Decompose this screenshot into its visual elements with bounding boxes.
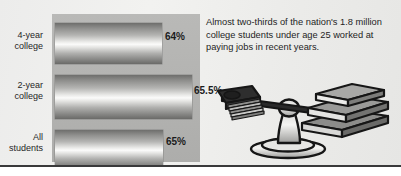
axis-label-all-students: All students [0,132,43,154]
caption-text: Almost two-thirds of the nation's 1.8 mi… [206,16,392,54]
axis-label-line-1: 4-year [0,30,43,41]
axis-label-line-2: students [0,143,43,154]
bottom-rule [0,165,401,167]
chart-category-labels: 4-year college 2-year college All studen… [0,14,48,162]
axis-label-line-1: 2-year [0,80,43,91]
bar-value-4-year-college: 64% [165,31,185,42]
balance-scale-illustration [216,66,401,162]
axis-label-line-1: All [0,132,43,143]
money-stack [218,86,264,120]
bar-value-all-students: 65% [166,136,186,147]
axis-label-2-year-college: 2-year college [0,80,43,102]
axis-label-line-2: college [0,41,43,52]
bar-2-year-college [55,75,192,119]
book-stack [302,84,388,137]
bottom-margin [0,167,401,176]
axis-label-line-2: college [0,91,43,102]
bar-all-students [55,130,163,169]
infographic-root: 4-year college 2-year college All studen… [0,0,401,176]
axis-label-4-year-college: 4-year college [0,30,43,52]
bar-4-year-college [55,23,162,64]
